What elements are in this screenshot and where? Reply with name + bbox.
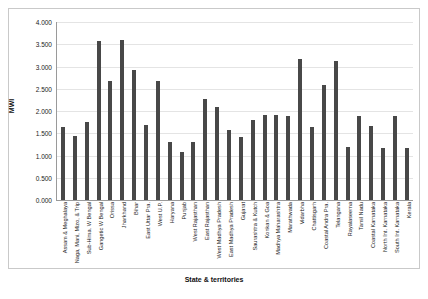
bar[interactable] [393,116,397,200]
bar[interactable] [120,40,124,200]
bar-slot [247,22,259,200]
y-axis-tick-label: 1.000 [36,152,52,159]
x-tick-slot: Jharkhand [115,202,127,270]
bar-slot [69,22,81,200]
bar[interactable] [251,120,255,200]
plot-area [56,22,413,201]
bar[interactable] [263,115,267,200]
bar[interactable] [405,148,409,201]
bar-slot [294,22,306,200]
bar[interactable] [239,137,243,200]
bar[interactable] [132,70,136,200]
bar[interactable] [286,116,290,200]
bar-slot [116,22,128,200]
bar[interactable] [144,125,148,200]
bar[interactable] [322,85,326,200]
x-axis-tick-label: Kerala [406,202,412,218]
bars-layer [57,22,413,200]
y-axis-tick-label: 2.000 [36,108,52,115]
x-tick-slot: Kerala [400,202,412,270]
bar-slot [235,22,247,200]
x-tick-slot: Coastal Andra Pra. [317,202,329,270]
x-tick-slot: Rayalaseema [341,202,353,270]
bar-slot [389,22,401,200]
bar-slot [353,22,365,200]
bar-slot [140,22,152,200]
y-axis-tick-label: 0.500 [36,174,52,181]
bar-slot [342,22,354,200]
bar-slot [330,22,342,200]
bar[interactable] [97,41,101,200]
bar-slot [259,22,271,200]
bar[interactable] [168,142,172,200]
x-tick-slot: Coastal Karnataka [364,202,376,270]
bar[interactable] [73,136,77,200]
bar[interactable] [310,127,314,200]
x-tick-slot: West Rajasthan [186,202,198,270]
x-tick-slot: Vidarbha [293,202,305,270]
x-tick-slot: Tamil Nadu [352,202,364,270]
bar-slot [365,22,377,200]
bar-slot [104,22,116,200]
x-tick-slot: Chattisgarh [305,202,317,270]
y-axis-tick-label: 4.000 [36,19,52,26]
bar[interactable] [108,81,112,200]
x-tick-slot: Marathwada [281,202,293,270]
y-axis-tick-label: 3.500 [36,41,52,48]
bar[interactable] [381,148,385,201]
bar-slot [164,22,176,200]
x-tick-slot: East Rajasthan [198,202,210,270]
y-axis-tick-label: 1.500 [36,130,52,137]
bar[interactable] [357,116,361,200]
y-axis-tick-label: 3.000 [36,63,52,70]
bar[interactable] [180,152,184,200]
y-axis-tick-label: 0.000 [36,197,52,204]
bar-slot [270,22,282,200]
bar-slot [176,22,188,200]
x-tick-slot: West Madhya Pradesh [210,202,222,270]
bar[interactable] [298,59,302,201]
bar[interactable] [191,142,195,200]
x-tick-slot: Saurashtra & Kutch [246,202,258,270]
bar-slot [93,22,105,200]
x-tick-slot: Bihar [127,202,139,270]
y-axis-title: MWI [8,86,15,126]
bar[interactable] [346,147,350,200]
bar[interactable] [156,81,160,200]
bar-slot [152,22,164,200]
bar-slot [401,22,413,200]
bar-chart-figure: MWI 4.0003.5003.0002.5002.0001.5001.0000… [0,0,428,299]
bar[interactable] [215,107,219,200]
bar-slot [81,22,93,200]
bar[interactable] [369,126,373,200]
x-tick-slot: Naga, Mani, Mizo, & Trip [68,202,80,270]
y-axis-tick-labels: 4.0003.5003.0002.5002.0001.5001.0000.500… [22,22,52,200]
bar[interactable] [274,115,278,200]
bar-slot [187,22,199,200]
x-tick-slot: East Uttar Pra. [139,202,151,270]
x-tick-slot: Punjab [175,202,187,270]
x-tick-slot: Telangana [329,202,341,270]
bar[interactable] [227,130,231,200]
bar-slot [282,22,294,200]
bar[interactable] [85,122,89,200]
x-axis-title: State & territories [0,276,428,283]
bar[interactable] [203,99,207,200]
bar-slot [199,22,211,200]
bar[interactable] [61,127,65,200]
y-axis-tick-label: 2.500 [36,85,52,92]
bar[interactable] [334,61,338,200]
bar-slot [211,22,223,200]
bar-slot [57,22,69,200]
x-tick-slot: Haryana [163,202,175,270]
bar-slot [306,22,318,200]
x-tick-slot: Sub-Hima. W Bengal [80,202,92,270]
x-axis-tick-labels: Assam & MeghalayaNaga, Mani, Mizo, & Tri… [56,202,412,270]
x-tick-slot: East Madhya Pradesh [222,202,234,270]
x-tick-slot: Konkan & Goa [258,202,270,270]
x-tick-slot: South Int. Karnataka [388,202,400,270]
x-tick-slot: Madhya Maharashtra [269,202,281,270]
x-tick-slot: Assam & Meghalaya [56,202,68,270]
x-tick-slot: Orissa [103,202,115,270]
bar-slot [377,22,389,200]
